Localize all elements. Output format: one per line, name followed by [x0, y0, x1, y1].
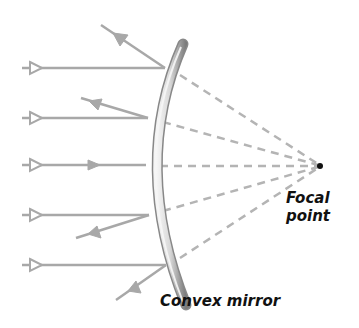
arrow-right-icon: [30, 112, 42, 124]
focal-label-line1: Focal: [286, 189, 330, 207]
focal-label-line2: point: [286, 207, 330, 225]
arrow-left-icon: [89, 99, 102, 110]
virtual-rays: [160, 75, 318, 258]
arrow-left-icon: [88, 160, 100, 170]
convex-mirror-diagram: Focal point Convex mirror: [0, 0, 359, 328]
virtual-ray-2: [163, 122, 318, 165]
arrow-right-icon: [30, 62, 42, 74]
reflected-ray-5: [116, 265, 166, 300]
reflected-ray-1: [101, 25, 165, 68]
incident-arrowheads: [30, 62, 42, 271]
arrow-right-icon: [30, 159, 42, 171]
focal-point-dot: [317, 163, 323, 169]
virtual-ray-1: [180, 75, 318, 164]
convex-mirror-label: Convex mirror: [160, 292, 280, 310]
arrow-down-left-icon: [88, 226, 101, 238]
focal-point-label: Focal point: [286, 189, 330, 225]
arrow-up-left-icon: [113, 33, 128, 46]
arrow-right-icon: [30, 259, 42, 271]
diagram-canvas: [0, 0, 359, 328]
arrow-right-icon: [30, 209, 42, 221]
reflected-arrowheads: [88, 33, 141, 293]
reflected-ray-4: [76, 215, 149, 238]
